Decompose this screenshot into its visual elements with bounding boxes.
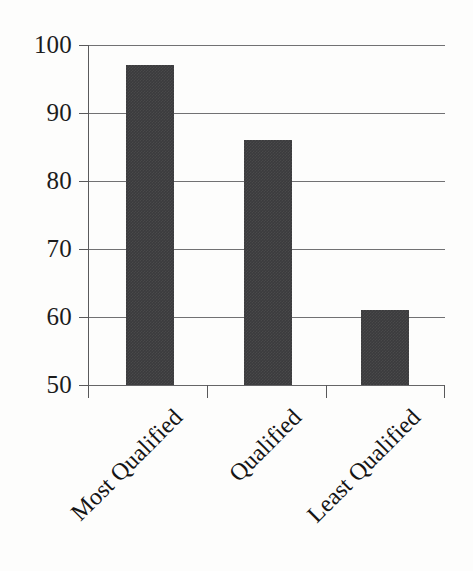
y-axis-tick-mark-70 (79, 249, 88, 250)
x-axis-tick-mark-3 (444, 385, 445, 398)
x-axis-tick-mark-2 (326, 385, 327, 398)
y-axis-tick-mark-100 (79, 45, 88, 46)
bar-least-qualified[interactable] (361, 310, 409, 385)
y-axis-tick-mark-60 (79, 317, 88, 318)
y-axis-tick-label-60: 60 (16, 304, 72, 329)
bar-chart-figure: 100 90 80 70 60 50 Most Qualified Qualif… (0, 0, 473, 571)
y-axis-tick-labels: 100 90 80 70 60 50 (10, 0, 72, 571)
gridline-100 (88, 45, 445, 46)
y-axis-tick-label-80: 80 (16, 168, 72, 193)
x-axis-baseline (88, 385, 445, 386)
y-axis-tick-label-100: 100 (16, 32, 72, 57)
y-axis-tick-label-90: 90 (16, 100, 72, 125)
y-axis-tick-label-70: 70 (16, 236, 72, 261)
bar-most-qualified[interactable] (126, 65, 174, 385)
plot-area (88, 45, 445, 385)
x-axis-tick-mark-1 (207, 385, 208, 398)
y-axis-tick-mark-50 (79, 385, 88, 386)
bar-qualified[interactable] (244, 140, 292, 385)
x-axis-tick-mark-0 (88, 385, 89, 398)
y-axis-tick-mark-80 (79, 181, 88, 182)
y-axis-tick-label-50: 50 (16, 372, 72, 397)
y-axis-tick-mark-90 (79, 113, 88, 114)
